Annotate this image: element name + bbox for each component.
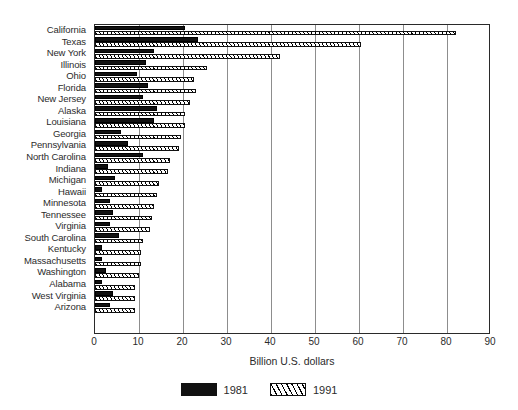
- bar-1981: [95, 199, 110, 204]
- x-tick-label: 30: [211, 336, 241, 347]
- bar-row: [95, 291, 489, 303]
- bar-1981: [95, 49, 154, 54]
- category-label: Virginia: [0, 220, 90, 232]
- category-label: Alabama: [0, 278, 90, 290]
- x-tick-label: 20: [167, 336, 197, 347]
- bar-1981: [95, 291, 113, 296]
- legend-item-1981: 1981: [181, 383, 248, 396]
- bar-1991: [95, 204, 154, 209]
- bar-1991: [95, 89, 196, 94]
- bar-1981: [95, 141, 128, 146]
- bar-row: [95, 60, 489, 72]
- bar-1981: [95, 187, 102, 192]
- category-label: Kentucky: [0, 243, 90, 255]
- horizontal-bar-chart: CaliforniaTexasNew YorkIllinoisOhioFlori…: [0, 0, 518, 410]
- bar-row: [95, 140, 489, 152]
- category-label: New Jersey: [0, 93, 90, 105]
- value-axis-ticks: 0102030405060708090: [94, 336, 490, 352]
- bar-1981: [95, 303, 110, 308]
- x-tick-label: 40: [255, 336, 285, 347]
- bar-1981: [95, 268, 106, 273]
- bar-row: [95, 106, 489, 118]
- plot-area: [94, 24, 490, 334]
- bar-1981: [95, 37, 198, 42]
- bar-1981: [95, 233, 119, 238]
- category-label: Hawaii: [0, 186, 90, 198]
- x-tick-label: 10: [123, 336, 153, 347]
- solid-black-swatch: [181, 383, 217, 396]
- bar-1991: [95, 181, 159, 186]
- category-label: Illinois: [0, 59, 90, 71]
- chart-legend: 1981 1991: [0, 383, 518, 396]
- category-label: Michigan: [0, 174, 90, 186]
- category-label: Tennessee: [0, 209, 90, 221]
- bar-row: [95, 164, 489, 176]
- category-label: Florida: [0, 82, 90, 94]
- bar-1991: [95, 42, 361, 47]
- category-label: Indiana: [0, 163, 90, 175]
- bar-1991: [95, 66, 207, 71]
- bar-1981: [95, 153, 143, 158]
- bar-row: [95, 198, 489, 210]
- bar-1991: [95, 100, 190, 105]
- bar-row: [95, 244, 489, 256]
- bar-1981: [95, 245, 102, 250]
- bar-row: [95, 187, 489, 199]
- x-tick-label: 80: [431, 336, 461, 347]
- bar-1981: [95, 60, 146, 65]
- bar-row: [95, 221, 489, 233]
- bar-row: [95, 83, 489, 95]
- x-tick-label: 50: [299, 336, 329, 347]
- bar-1991: [95, 31, 456, 36]
- bar-row: [95, 210, 489, 222]
- bar-1991: [95, 308, 135, 313]
- bar-1991: [95, 54, 280, 59]
- legend-label-1991: 1991: [313, 384, 337, 396]
- bar-1991: [95, 273, 139, 278]
- bar-1991: [95, 77, 194, 82]
- category-label: Pennsylvania: [0, 139, 90, 151]
- bar-row: [95, 71, 489, 83]
- bar-1991: [95, 227, 150, 232]
- bar-1991: [95, 285, 135, 290]
- x-tick-label: 60: [343, 336, 373, 347]
- bar-1981: [95, 95, 143, 100]
- bar-1991: [95, 123, 185, 128]
- category-label: West Virginia: [0, 290, 90, 302]
- bar-row: [95, 175, 489, 187]
- bar-1991: [95, 193, 157, 198]
- bar-1981: [95, 257, 102, 262]
- bar-1981: [95, 176, 115, 181]
- bar-row: [95, 48, 489, 60]
- category-label: Minnesota: [0, 197, 90, 209]
- bar-1991: [95, 239, 143, 244]
- bar-row: [95, 94, 489, 106]
- legend-item-1991: 1991: [270, 383, 337, 396]
- bar-1981: [95, 222, 110, 227]
- bar-1981: [95, 210, 113, 215]
- category-label: Texas: [0, 36, 90, 48]
- bar-1981: [95, 118, 154, 123]
- category-label: Louisiana: [0, 116, 90, 128]
- category-label: Alaska: [0, 105, 90, 117]
- bar-1991: [95, 250, 141, 255]
- bar-1991: [95, 296, 135, 301]
- bar-1981: [95, 164, 108, 169]
- hatched-swatch: [270, 383, 306, 396]
- bar-1991: [95, 146, 179, 151]
- legend-label-1981: 1981: [224, 384, 248, 396]
- bar-1991: [95, 112, 185, 117]
- bar-1981: [95, 130, 121, 135]
- category-label: New York: [0, 47, 90, 59]
- bar-row: [95, 117, 489, 129]
- bar-row: [95, 279, 489, 291]
- x-axis-title: Billion U.S. dollars: [94, 355, 490, 367]
- category-axis-labels: CaliforniaTexasNew YorkIllinoisOhioFlori…: [0, 24, 90, 313]
- category-label: Arizona: [0, 301, 90, 313]
- bar-1991: [95, 135, 181, 140]
- category-label: North Carolina: [0, 151, 90, 163]
- bar-1981: [95, 83, 148, 88]
- category-label: Georgia: [0, 128, 90, 140]
- bar-row: [95, 152, 489, 164]
- bar-row: [95, 129, 489, 141]
